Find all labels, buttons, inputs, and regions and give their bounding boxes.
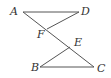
label-point-c: C [97,62,106,75]
segment-BE [40,47,70,67]
geometry-diagram: A D F E B C [0,0,111,78]
label-point-f: F [36,28,45,41]
segment-AC [23,12,94,67]
segment-DF [47,12,79,29]
label-point-e: E [73,36,82,49]
label-point-a: A [9,5,18,18]
label-point-d: D [80,5,90,18]
label-point-b: B [30,61,39,74]
